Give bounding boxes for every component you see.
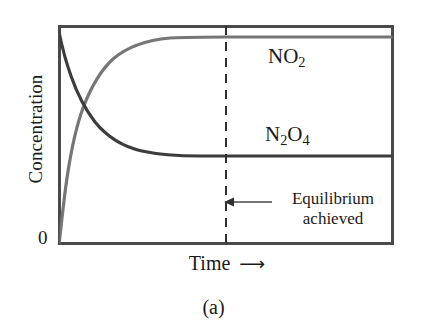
equilibrium-annotation-line1: Equilibrium (292, 189, 374, 208)
series-label-n2o4: N2O4 (265, 124, 310, 147)
x-axis-label-text: Time (189, 252, 231, 274)
time-arrow-right-icon: ⟶ (239, 253, 263, 274)
y-axis-label: Concentration (25, 29, 47, 229)
species-n2o4-element-o: O (287, 122, 302, 146)
species-no2-subscript: 2 (298, 54, 305, 70)
equilibrium-annotation: Equilibrium achieved (277, 189, 389, 229)
equilibrium-annotation-line2: achieved (277, 209, 389, 229)
x-axis-label: Time⟶ (58, 252, 394, 275)
species-n2o4-element-n: N (265, 122, 280, 146)
y-axis-zero-tick: 0 (38, 228, 48, 247)
species-no2-element: NO (268, 44, 298, 68)
series-label-no2: NO2 (268, 46, 305, 69)
species-n2o4-subscript-o: 4 (302, 132, 309, 148)
equilibrium-concentration-figure: Concentration 0 Time⟶ NO2 N2O4 Equilibri… (0, 0, 427, 334)
figure-caption: (a) (0, 296, 427, 319)
